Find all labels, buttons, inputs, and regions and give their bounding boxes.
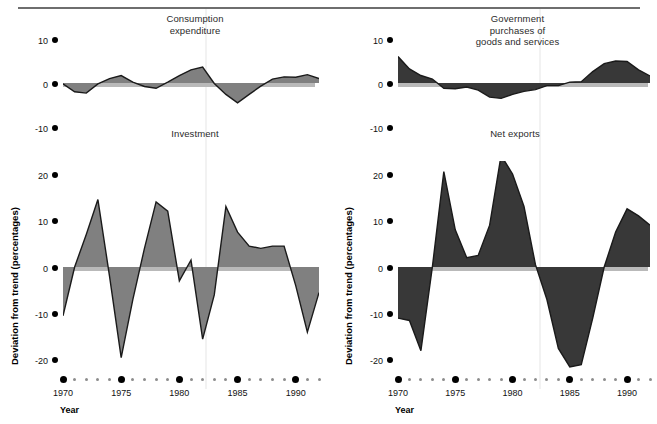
xaxis-tick-label: 1970 xyxy=(53,388,73,398)
ytick-label: -10 xyxy=(370,124,383,134)
tick-dot-icon xyxy=(52,357,58,363)
xaxis-tick-label: 1990 xyxy=(617,388,637,398)
xaxis-minor-tick-dot xyxy=(488,378,491,381)
xaxis-tick-label: 1980 xyxy=(169,388,189,398)
xaxis-minor-tick-dot xyxy=(580,378,583,381)
xaxis-minor-tick-dot xyxy=(614,378,617,381)
tick-dot-icon xyxy=(52,172,58,178)
tick-dot-icon xyxy=(387,311,393,317)
ytick-label: 0 xyxy=(43,80,48,90)
ytick-label: 10 xyxy=(373,217,383,227)
panel-title-netexports: Net exports xyxy=(455,128,575,140)
xaxis-major-tick-dot xyxy=(624,376,631,383)
xaxis-minor-tick-dot xyxy=(96,378,99,381)
xaxis-minor-tick-dot xyxy=(442,378,445,381)
xaxis-minor-tick-dot xyxy=(318,378,321,381)
xaxis-major-tick-dot xyxy=(452,376,459,383)
xaxis-minor-tick-dot xyxy=(477,378,480,381)
ytick-consumption-neg10: -10 xyxy=(10,123,58,134)
xaxis-minor-tick-dot xyxy=(557,378,560,381)
xaxis-minor-tick-dot xyxy=(603,378,606,381)
tick-dot-icon xyxy=(387,265,393,271)
ytick-label: 10 xyxy=(373,36,383,46)
xaxis-minor-tick-dot xyxy=(73,378,76,381)
ytick-investment-20: 20 xyxy=(10,170,58,181)
tick-dot-icon xyxy=(52,81,58,87)
tick-dot-icon xyxy=(387,172,393,178)
area-plot-consumption xyxy=(63,43,319,125)
xaxis-minor-tick-dot xyxy=(259,378,262,381)
tick-dot-icon xyxy=(52,311,58,317)
xaxis-major-tick-dot xyxy=(566,376,573,383)
xaxis-labels-left: 19701975198019851990 xyxy=(63,388,319,400)
xaxis-minor-tick-dot xyxy=(271,378,274,381)
tick-dot-icon xyxy=(387,218,393,224)
tick-dot-icon xyxy=(52,265,58,271)
tick-dot-icon xyxy=(387,357,393,363)
xaxis-minor-tick-dot xyxy=(201,378,204,381)
xaxis-minor-tick-dot xyxy=(500,378,503,381)
tick-dot-icon xyxy=(52,125,58,131)
yaxis-title-left: Deviation from trend (percentages) xyxy=(9,207,20,365)
ytick-government-0: 0 xyxy=(345,79,393,90)
ytick-label: 0 xyxy=(378,264,383,274)
xaxis-minor-tick-dot xyxy=(248,378,251,381)
ytick-label: -10 xyxy=(370,310,383,320)
xaxis-tick-label: 1970 xyxy=(388,388,408,398)
ytick-netexports-20: 20 xyxy=(345,170,393,181)
ytick-label: 20 xyxy=(38,171,48,181)
xaxis-minor-tick-dot xyxy=(85,378,88,381)
xaxis-minor-tick-dot xyxy=(306,378,309,381)
xaxis-minor-tick-dot xyxy=(649,378,652,381)
xaxis-minor-tick-dot xyxy=(131,378,134,381)
xaxis-minor-tick-dot xyxy=(465,378,468,381)
top-divider-rule xyxy=(18,7,640,9)
ytick-label: 0 xyxy=(378,80,383,90)
tick-dot-icon xyxy=(387,81,393,87)
ytick-consumption-0: 0 xyxy=(10,79,58,90)
xaxis-dots-right xyxy=(398,375,650,385)
xaxis-major-tick-dot xyxy=(118,376,125,383)
ytick-label: 20 xyxy=(373,171,383,181)
xaxis-title-left: Year xyxy=(60,405,79,415)
xaxis-minor-tick-dot xyxy=(545,378,548,381)
xaxis-minor-tick-dot xyxy=(283,378,286,381)
xaxis-major-tick-dot xyxy=(234,376,241,383)
xaxis-minor-tick-dot xyxy=(108,378,111,381)
xaxis-minor-tick-dot xyxy=(408,378,411,381)
xaxis-minor-tick-dot xyxy=(591,378,594,381)
area-plot-investment xyxy=(63,171,319,367)
ytick-label: -10 xyxy=(35,124,48,134)
ytick-label: -20 xyxy=(35,356,48,366)
xaxis-tick-label: 1985 xyxy=(228,388,248,398)
ytick-label: 10 xyxy=(38,36,48,46)
xaxis-tick-label: 1980 xyxy=(503,388,523,398)
xaxis-major-tick-dot xyxy=(60,376,67,383)
xaxis-minor-tick-dot xyxy=(224,378,227,381)
xaxis-tick-label: 1975 xyxy=(445,388,465,398)
xaxis-labels-right: 19701975198019851990 xyxy=(398,388,650,400)
xaxis-tick-label: 1985 xyxy=(560,388,580,398)
xaxis-minor-tick-dot xyxy=(419,378,422,381)
tick-dot-icon xyxy=(387,125,393,131)
xaxis-minor-tick-dot xyxy=(637,378,640,381)
xaxis-dots-left xyxy=(63,375,319,385)
xaxis-minor-tick-dot xyxy=(166,378,169,381)
xaxis-major-tick-dot xyxy=(292,376,299,383)
panel-title-consumption: Consumption expenditure xyxy=(120,13,270,36)
ytick-label: 10 xyxy=(38,217,48,227)
ytick-government-neg10: -10 xyxy=(345,123,393,134)
area-plot-netexports xyxy=(398,161,650,371)
ytick-government-10: 10 xyxy=(345,35,393,46)
xaxis-major-tick-dot xyxy=(395,376,402,383)
ytick-consumption-10: 10 xyxy=(10,35,58,46)
tick-dot-icon xyxy=(387,37,393,43)
yaxis-title-right: Deviation from trend (percentages) xyxy=(343,207,354,365)
xaxis-minor-tick-dot xyxy=(523,378,526,381)
xaxis-minor-tick-dot xyxy=(431,378,434,381)
xaxis-minor-tick-dot xyxy=(143,378,146,381)
xaxis-tick-label: 1975 xyxy=(111,388,131,398)
panel-title-investment: Investment xyxy=(140,128,250,140)
xaxis-minor-tick-dot xyxy=(534,378,537,381)
xaxis-minor-tick-dot xyxy=(155,378,158,381)
